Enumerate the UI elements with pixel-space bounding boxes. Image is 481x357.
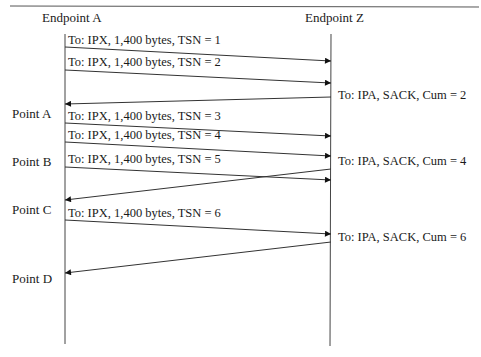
lifeline-endpoint-z — [330, 34, 331, 346]
msg-label-tsn-6: To: IPX, 1,400 bytes, TSN = 6 — [68, 207, 221, 220]
msg-label-tsn-2: To: IPX, 1,400 bytes, TSN = 2 — [68, 56, 221, 69]
msg-label-tsn-3: To: IPX, 1,400 bytes, TSN = 3 — [68, 110, 221, 123]
arrow-tsn-6 — [65, 220, 331, 234]
top-rule — [10, 6, 479, 7]
point-d-label: Point D — [12, 272, 52, 286]
endpoint-a-label: Endpoint A — [42, 11, 102, 25]
endpoint-z-label: Endpoint Z — [305, 11, 364, 25]
msg-label-sack-cum-4: To: IPA, SACK, Cum = 4 — [338, 155, 466, 168]
point-b-label: Point B — [12, 155, 51, 169]
msg-label-tsn-4: To: IPX, 1,400 bytes, TSN = 4 — [68, 129, 221, 142]
diagram-lines — [0, 0, 481, 357]
msg-label-tsn-1: To: IPX, 1,400 bytes, TSN = 1 — [68, 34, 221, 47]
msg-label-sack-cum-2: To: IPA, SACK, Cum = 2 — [338, 89, 466, 102]
point-c-label: Point C — [12, 203, 51, 217]
sequence-diagram: Endpoint A Endpoint Z Point A Point B Po… — [0, 0, 481, 357]
msg-label-tsn-5: To: IPX, 1,400 bytes, TSN = 5 — [68, 153, 221, 166]
arrow-sack-cum-6 — [65, 242, 331, 273]
point-a-label: Point A — [12, 107, 51, 121]
msg-label-sack-cum-6: To: IPA, SACK, Cum = 6 — [338, 231, 466, 244]
arrow-tsn-2 — [65, 70, 331, 83]
arrow-sack-cum-2 — [65, 97, 331, 104]
